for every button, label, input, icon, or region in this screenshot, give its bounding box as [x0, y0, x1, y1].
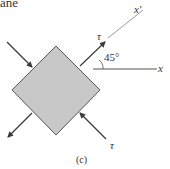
x-prime-label: x′	[134, 4, 141, 15]
angle-arc	[99, 60, 103, 69]
tau-label-top: τ	[97, 31, 101, 42]
arrow-upper-left	[7, 42, 32, 67]
figure-caption: (c)	[76, 155, 87, 165]
x-label: x	[158, 63, 163, 74]
tau-label-bottom: τ	[110, 140, 114, 151]
angle-label: 45°	[104, 52, 119, 63]
pure-shear-element-diagram	[0, 0, 170, 169]
arrow-lower-right	[80, 113, 106, 139]
arrow-lower-left	[8, 113, 32, 137]
